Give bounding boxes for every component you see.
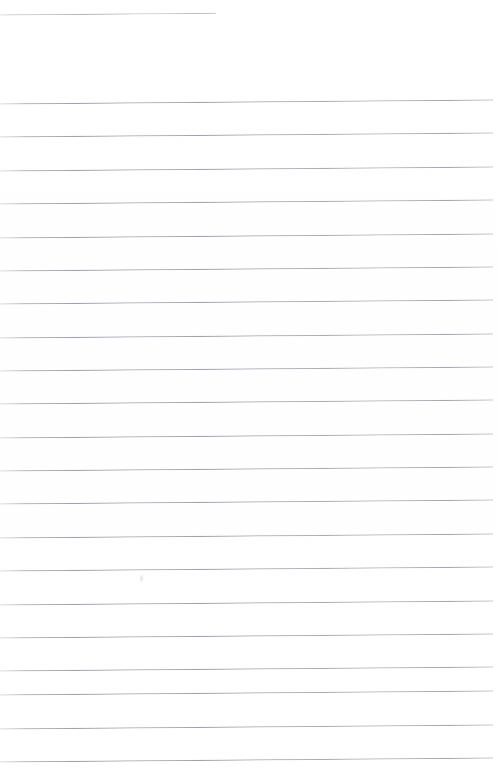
ruled-line (0, 233, 493, 239)
rule-ink (0, 566, 493, 572)
ruled-line (0, 600, 493, 606)
ruled-line (0, 166, 493, 172)
rule-ink (0, 166, 493, 172)
paper-background (0, 0, 498, 773)
rule-ink (0, 633, 493, 639)
rule-ink (0, 600, 493, 606)
rule-ink (0, 466, 493, 472)
ruled-line (0, 199, 493, 205)
ruled-line (0, 666, 493, 672)
rule-ink (0, 299, 493, 305)
ruled-line (0, 499, 493, 505)
rule-ink (0, 233, 493, 239)
rule-ink (0, 333, 493, 339)
rule-ink (0, 399, 493, 405)
ruled-line (0, 757, 493, 763)
header-rule (0, 12, 216, 16)
rule-ink (0, 366, 493, 372)
rule-ink (0, 199, 493, 205)
ruled-line (0, 724, 493, 730)
rule-ink (0, 99, 493, 105)
scanned-page (0, 0, 498, 773)
ruled-line (0, 533, 493, 539)
ruled-line (0, 466, 493, 472)
rule-ink (0, 757, 493, 763)
rule-ink (0, 499, 493, 505)
rule-ink (0, 12, 216, 16)
scan-smudge (139, 574, 144, 583)
ruled-line (0, 399, 493, 405)
rule-ink (0, 433, 493, 439)
ruled-line (0, 266, 493, 272)
rule-ink (0, 266, 493, 272)
rule-ink (0, 724, 493, 730)
ruled-line (0, 633, 493, 639)
rule-ink (0, 533, 493, 539)
ruled-line (0, 333, 493, 339)
rule-ink (0, 690, 493, 696)
ruled-line (0, 690, 493, 696)
ruled-line (0, 99, 493, 105)
ruled-line (0, 132, 493, 138)
ruled-line (0, 433, 493, 439)
ruled-line (0, 566, 493, 572)
rule-ink (0, 132, 493, 138)
rule-ink (0, 666, 493, 672)
ruled-line (0, 366, 493, 372)
ruled-line (0, 299, 493, 305)
